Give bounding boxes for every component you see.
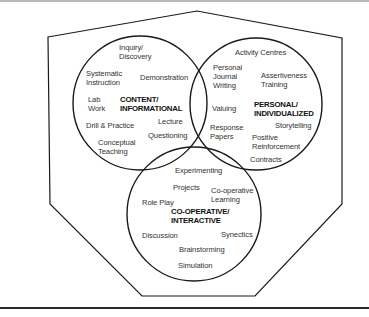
label-inquiry-discovery: Inquiry/ Discovery <box>119 43 151 61</box>
label-demonstration: Demonstration <box>140 73 188 82</box>
label-synectics: Synectics <box>221 230 253 239</box>
label-brainstorming: Brainstorming <box>179 245 225 254</box>
label-questioning: Questioning <box>148 131 187 140</box>
label-cooperative-learning: Co-operative Learning <box>211 186 253 204</box>
label-drill-practice: Drill & Practice <box>86 121 134 130</box>
label-lecture: Lecture <box>158 117 183 126</box>
bottom-rule <box>0 307 369 309</box>
label-valuing: Valuing <box>212 104 236 113</box>
label-storytelling: Storytelling <box>275 121 311 130</box>
label-assertiveness-training: Assertiveness Training <box>261 71 307 89</box>
label-response-papers: Response Papers <box>210 123 243 141</box>
label-personal-journal-writing: Personal Journal Writing <box>213 63 242 91</box>
label-experimenting: Experimenting <box>175 166 222 175</box>
label-discussion: Discussion <box>142 231 178 240</box>
heading-cooperative-interactive: CO-OPERATIVE/ INTERACTIVE <box>171 207 229 226</box>
label-lab-work: Lab Work <box>88 95 105 113</box>
label-contracts: Contracts <box>250 155 282 164</box>
heading-personal-individualized: PERSONAL/ INDIVIDUALIZED <box>254 100 314 119</box>
label-simulation: Simulation <box>178 261 212 270</box>
label-projects: Projects <box>173 183 200 192</box>
label-positive-reinforcement: Positive Reinforcement <box>252 133 300 151</box>
heading-content-informational: CONTENT/ INFORMATIONAL <box>120 95 182 114</box>
label-conceptual-teaching: Conceptual Teaching <box>98 138 135 156</box>
label-role-play: Role Play <box>142 198 174 207</box>
label-activity-centres: Activity Centres <box>235 48 286 57</box>
label-systematic-instruction: Systematic Instruction <box>86 69 122 87</box>
